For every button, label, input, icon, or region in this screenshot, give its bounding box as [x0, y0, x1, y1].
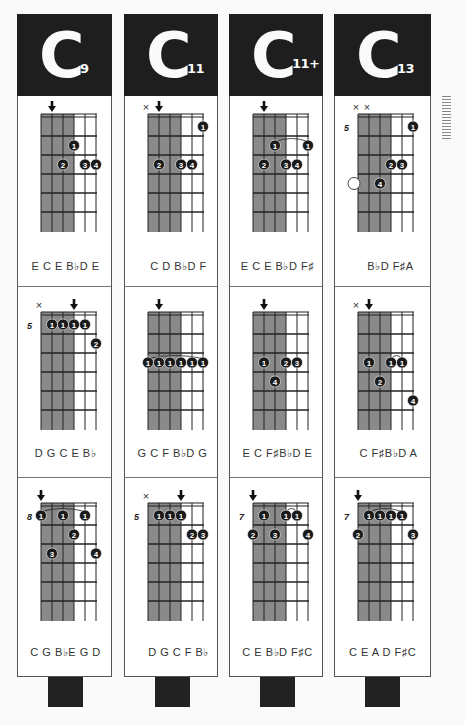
chord-suffix: 9: [80, 61, 89, 76]
finger-dot: 4: [91, 548, 102, 559]
finger-dot: 2: [187, 529, 198, 540]
finger-dot: 2: [91, 338, 102, 349]
svg-text:1: 1: [295, 512, 300, 521]
finger-dot: 4: [292, 159, 303, 170]
svg-text:1: 1: [378, 512, 383, 521]
finger-dot: 2: [375, 376, 386, 387]
svg-text:2: 2: [284, 359, 289, 368]
chord-column-c11: C 11 C D B♭D F×1234 G C F B♭D G111111 D …: [124, 14, 218, 677]
svg-text:1: 1: [157, 512, 162, 521]
finger-dot: 3: [408, 529, 419, 540]
finger-dot: 1: [80, 319, 91, 330]
chord-header: C 11: [124, 14, 218, 96]
fretboard-diagram: 7111234: [230, 478, 327, 668]
fret-number-label: 7: [344, 512, 350, 522]
chord-card: B♭D F♯A××51234 C F♯B♭D A×11124 C E A D F…: [334, 96, 431, 677]
finger-dot: 2: [154, 159, 165, 170]
finger-dot: 4: [303, 529, 314, 540]
column-tab: [260, 677, 295, 707]
chord-diagram: C D B♭D F×1234: [125, 96, 217, 287]
finger-dot: 1: [58, 510, 69, 521]
finger-dot: 2: [248, 529, 259, 540]
svg-text:1: 1: [400, 512, 405, 521]
chord-diagram: E C E B♭D F♯11234: [230, 96, 322, 287]
svg-text:1: 1: [411, 123, 416, 132]
finger-dot: 1: [69, 319, 80, 330]
svg-text:1: 1: [179, 512, 184, 521]
svg-text:1: 1: [39, 512, 44, 521]
svg-text:3: 3: [201, 531, 206, 540]
finger-dot: 1: [397, 510, 408, 521]
finger-dot: 1: [408, 121, 419, 132]
svg-text:2: 2: [72, 531, 77, 540]
finger-dot: 2: [259, 159, 270, 170]
finger-dot: 1: [176, 357, 187, 368]
finger-dot: 4: [91, 159, 102, 170]
svg-text:1: 1: [389, 359, 394, 368]
root-arrow-icon: [155, 299, 163, 310]
svg-text:1: 1: [273, 142, 278, 151]
muted-string-icon: ×: [353, 101, 359, 113]
chord-column-c13: C 13 B♭D F♯A××51234 C F♯B♭D A×11124 C E …: [334, 14, 431, 677]
finger-dot: 4: [408, 395, 419, 406]
svg-text:3: 3: [273, 531, 278, 540]
finger-dot: 1: [375, 510, 386, 521]
finger-dot: 2: [69, 529, 80, 540]
svg-text:4: 4: [94, 550, 99, 559]
page-edge-mark: [442, 96, 451, 141]
root-arrow-icon: [70, 299, 78, 310]
fretboard-diagram: 7111123: [335, 478, 432, 668]
chord-diagram: D G C F B♭×511123: [125, 478, 217, 668]
chord-diagram: E C E B♭D E1234: [18, 96, 111, 287]
finger-dot: 1: [292, 510, 303, 521]
finger-dot: 1: [397, 357, 408, 368]
chord-suffix: 11: [187, 61, 204, 76]
svg-text:2: 2: [389, 161, 394, 170]
fretboard-diagram: 111111: [125, 287, 222, 477]
chord-diagram: C E A D F♯C7111123: [335, 478, 430, 668]
root-arrow-icon: [260, 101, 268, 112]
svg-text:2: 2: [157, 161, 162, 170]
chord-root: C: [39, 22, 83, 90]
finger-dot: 1: [80, 510, 91, 521]
svg-text:1: 1: [367, 512, 372, 521]
fretboard-diagram: ××51234: [335, 96, 432, 286]
root-arrow-icon: [249, 490, 257, 501]
svg-text:3: 3: [83, 161, 88, 170]
svg-text:3: 3: [50, 550, 55, 559]
finger-dot: 3: [270, 529, 281, 540]
finger-dot: 3: [47, 548, 58, 559]
svg-text:1: 1: [168, 512, 173, 521]
svg-text:1: 1: [284, 512, 289, 521]
chord-diagram: E C F♯B♭D E1234: [230, 287, 322, 478]
fretboard-diagram: 11234: [230, 96, 327, 286]
finger-dot: 1: [364, 357, 375, 368]
fret-number-label: 5: [134, 512, 140, 522]
fret-number-label: 5: [344, 123, 350, 133]
finger-dot: 1: [36, 510, 47, 521]
finger-dot: 1: [259, 357, 270, 368]
fret-number-label: 8: [27, 512, 32, 522]
muted-string-icon: ×: [36, 299, 42, 311]
svg-text:1: 1: [157, 359, 162, 368]
svg-text:4: 4: [411, 397, 416, 406]
finger-dot: 1: [165, 357, 176, 368]
finger-dot: 3: [292, 357, 303, 368]
chord-card: E C E B♭D F♯11234 E C F♯B♭D E1234 C E B♭…: [229, 96, 323, 677]
finger-dot: 4: [375, 178, 386, 189]
svg-text:1: 1: [306, 142, 311, 151]
svg-text:4: 4: [378, 180, 383, 189]
muted-string-icon: ×: [143, 490, 149, 502]
chord-diagram: G C F B♭D G111111: [125, 287, 217, 478]
finger-dot: 2: [58, 159, 69, 170]
svg-text:2: 2: [356, 531, 361, 540]
finger-dot: 1: [270, 140, 281, 151]
finger-dot: 1: [154, 510, 165, 521]
column-tab: [365, 677, 400, 707]
svg-text:3: 3: [411, 531, 416, 540]
finger-dot: 4: [270, 376, 281, 387]
svg-text:2: 2: [190, 531, 195, 540]
chord-card: C D B♭D F×1234 G C F B♭D G111111 D G C F…: [124, 96, 218, 677]
chord-diagram: B♭D F♯A××51234: [335, 96, 430, 287]
finger-dot: 2: [353, 529, 364, 540]
